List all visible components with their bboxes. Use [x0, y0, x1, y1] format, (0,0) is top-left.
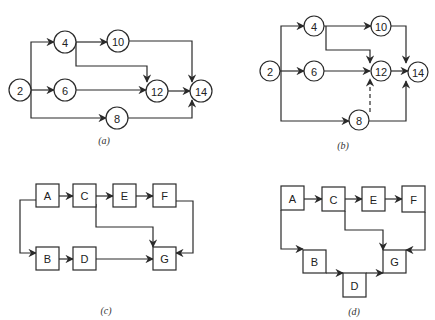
edge-F-to-G	[406, 212, 425, 250]
node-6: 6	[54, 79, 76, 101]
node-label: C	[81, 190, 89, 202]
network-diagram-figure: 2461012814(a) 2461012814(b) ACEFBDG(c) A…	[0, 0, 435, 320]
diagram-canvas: 2461012814(a) 2461012814(b) ACEFBDG(c) A…	[0, 0, 435, 320]
node-label: D	[81, 253, 89, 265]
node-label: 4	[311, 21, 317, 33]
edge-8-to-14	[128, 100, 192, 118]
node-10: 10	[107, 30, 129, 52]
edge-A-to-B	[281, 210, 303, 249]
node-label: 10	[112, 36, 124, 48]
node-E: E	[113, 184, 136, 207]
node-14: 14	[190, 80, 212, 102]
node-4: 4	[54, 31, 76, 53]
node-D: D	[73, 247, 96, 270]
panel-caption: (a)	[98, 135, 110, 147]
node-E: E	[362, 187, 385, 211]
edge-C-to-G	[96, 204, 153, 247]
node-label: 2	[17, 85, 23, 97]
node-label: F	[410, 194, 417, 206]
node-6: 6	[304, 61, 324, 81]
node-12: 12	[146, 80, 168, 102]
node-2: 2	[9, 79, 31, 101]
edge-4-to-12	[326, 26, 370, 63]
node-F: F	[402, 186, 425, 212]
node-label: G	[160, 253, 169, 265]
node-8: 8	[349, 110, 369, 130]
node-label: E	[370, 194, 377, 206]
node-label: 14	[195, 86, 207, 98]
node-label: E	[121, 190, 128, 202]
edge-8-to-14	[369, 81, 406, 121]
node-label: 8	[114, 113, 120, 125]
node-F: F	[153, 184, 176, 207]
node-8: 8	[106, 107, 128, 129]
node-label: D	[351, 280, 359, 292]
node-label: B	[311, 256, 318, 268]
node-label: 8	[356, 115, 362, 127]
node-G: G	[153, 247, 176, 270]
node-label: 4	[62, 37, 68, 49]
node-label: A	[289, 193, 297, 205]
node-label: B	[44, 253, 51, 265]
node-A: A	[281, 186, 304, 210]
node-label: F	[161, 190, 168, 202]
node-C: C	[73, 184, 96, 207]
node-label: 10	[375, 21, 387, 33]
node-B: B	[36, 247, 59, 270]
panel-caption: (d)	[348, 306, 360, 318]
panel-caption: (c)	[100, 305, 112, 317]
edge-10-to-14	[391, 26, 406, 63]
node-D: D	[343, 273, 366, 297]
node-4: 4	[304, 16, 324, 36]
edge-F-to-G	[176, 201, 193, 253]
node-label: 12	[375, 66, 387, 78]
edge-C-to-G	[345, 211, 383, 250]
node-label: G	[390, 256, 399, 268]
node-C: C	[322, 187, 345, 211]
node-label: 6	[311, 66, 317, 78]
node-label: C	[330, 194, 338, 206]
node-10: 10	[371, 16, 391, 36]
node-A: A	[36, 184, 59, 207]
edge-10-to-14	[129, 41, 192, 82]
node-G: G	[383, 250, 406, 273]
node-label: 2	[267, 66, 273, 78]
panel-a: 2461012814(a)	[9, 30, 212, 147]
panel-c: ACEFBDG(c)	[20, 184, 193, 317]
node-14: 14	[408, 62, 428, 82]
panel-b: 2461012814(b)	[260, 16, 428, 152]
panel-caption: (b)	[337, 140, 349, 152]
node-12: 12	[371, 61, 391, 81]
node-label: 6	[62, 85, 68, 97]
node-label: 12	[151, 86, 163, 98]
node-label: A	[44, 190, 52, 202]
edge-A-to-B	[20, 200, 36, 253]
edge-2-to-4	[281, 26, 304, 71]
panel-d: ACEFBDG(d)	[281, 186, 425, 318]
node-label: 14	[412, 67, 424, 79]
edge-2-to-4	[31, 42, 54, 90]
node-B: B	[303, 250, 326, 273]
node-2: 2	[260, 61, 280, 81]
